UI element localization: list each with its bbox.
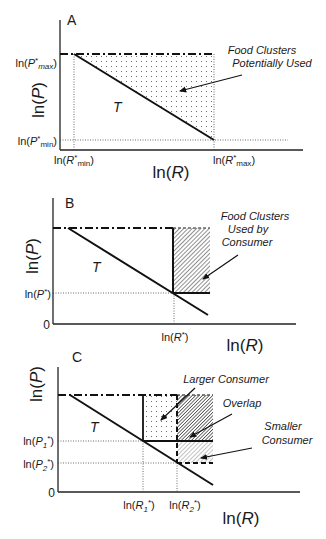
panel-c-letter: C: [72, 349, 82, 365]
panel-c-t-label: T: [90, 419, 100, 435]
panel-b-annotation-line1: Food Clusters: [221, 210, 290, 222]
panel-a-xtick-rmin: ln(R*min): [54, 153, 94, 168]
panel-c-xlabel: ln(R): [223, 509, 260, 528]
panel-a-t-label: T: [113, 99, 123, 115]
panel-b-xlabel: ln(R): [227, 336, 264, 355]
panel-a-xlabel: ln(R): [153, 163, 190, 182]
panel-c-annotation-smaller-line1: Smaller: [264, 420, 303, 432]
panel-a: A T ln(P*max) ln(P*min) ln(R*min) ln(R*m…: [16, 12, 313, 182]
panel-b-annotation-line3: Consumer: [222, 236, 274, 248]
panel-b-xtick-rstar: ln(R*): [162, 330, 189, 343]
panel-a-ytick-pmax: ln(P*max): [16, 56, 58, 71]
panel-a-xtick-rmax: ln(R*max): [213, 153, 255, 168]
panel-b-ylabel: ln(P): [23, 238, 42, 274]
panel-c-annotation-smaller-line2: Consumer: [262, 434, 314, 446]
panel-b-annotation-line2: Used by: [228, 223, 270, 235]
panel-a-ylabel: ln(P): [29, 82, 48, 118]
panel-b-origin: 0: [43, 318, 50, 332]
panel-a-annotation-line1: Food Clusters: [228, 44, 297, 56]
figure: A T ln(P*max) ln(P*min) ln(R*min) ln(R*m…: [0, 0, 326, 539]
panel-b-ytick-pstar: ln(P*): [25, 287, 51, 300]
panel-a-letter: A: [67, 12, 77, 28]
panel-b-used-region: [173, 228, 210, 293]
panel-c-origin: 0: [48, 486, 55, 500]
panel-c-xtick-r1: ln(R1*): [123, 498, 154, 514]
panel-c-xtick-r2: ln(R2*): [169, 498, 200, 514]
panel-c-ytick-p1: ln(P1*): [23, 434, 54, 450]
panel-c-larger-region: [143, 395, 177, 441]
panel-c-smaller-region: [177, 441, 213, 463]
panel-a-ytick-pmin: ln(P*min): [18, 134, 57, 149]
panel-c-annotation-overlap: Overlap: [223, 397, 262, 409]
panel-c-ytick-p2: ln(P2*): [23, 457, 54, 473]
panel-c-ylabel: ln(P): [27, 366, 46, 402]
panel-a-annotation-line2: Potentially Used: [232, 57, 312, 69]
panel-c-annotation-larger: Larger Consumer: [183, 373, 270, 385]
panel-c: C T ln(P1*) ln(P2*) 0 ln(R1*) ln(R2*) ln…: [23, 349, 314, 528]
panel-b-t-label: T: [92, 259, 102, 275]
panel-b-letter: B: [65, 195, 74, 211]
panel-b: B T ln(P*) 0 ln(R*) ln(P) ln(R) Food Clu…: [23, 195, 296, 355]
